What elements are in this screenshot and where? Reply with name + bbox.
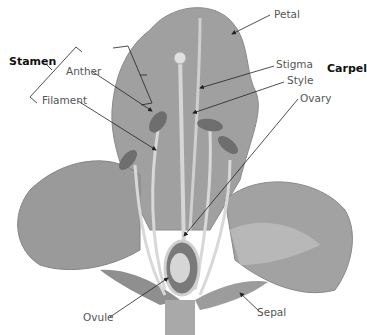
filament-label: Filament — [42, 94, 87, 106]
style-label: Style — [287, 74, 313, 86]
stamen-group-label: Stamen — [9, 55, 56, 68]
anther-label: Anther — [66, 65, 101, 77]
sepal-label: Sepal — [257, 306, 286, 318]
stem — [165, 300, 195, 335]
petal-label: Petal — [274, 8, 300, 20]
ovule-label: Ovule — [83, 311, 114, 323]
ovary-label: Ovary — [300, 92, 331, 104]
left-petal — [18, 161, 140, 270]
stigma-shape — [174, 52, 186, 64]
stigma-label: Stigma — [276, 58, 313, 70]
carpel-group-label: Carpel — [327, 62, 367, 75]
ovule-shape — [170, 253, 190, 283]
